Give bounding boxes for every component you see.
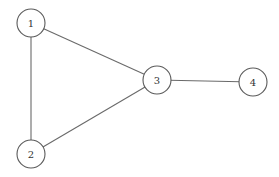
node-label: 2 xyxy=(28,149,34,160)
edge-2-3 xyxy=(31,80,157,154)
node-4: 4 xyxy=(239,68,267,96)
node-label: 1 xyxy=(28,18,34,29)
node-2: 2 xyxy=(17,140,45,168)
node-1: 1 xyxy=(17,9,45,37)
node-label: 3 xyxy=(154,75,160,86)
edge-1-3 xyxy=(31,23,157,80)
node-3: 3 xyxy=(143,66,171,94)
edges-layer xyxy=(31,23,253,154)
graph-diagram: 1234 xyxy=(0,0,279,177)
node-label: 4 xyxy=(250,77,256,88)
